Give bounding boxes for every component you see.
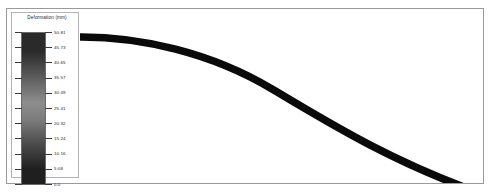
legend-tick-mark (45, 93, 52, 94)
legend-tick-mark (45, 184, 52, 185)
legend-tick-mark (15, 169, 22, 170)
legend-tick-label: 40.65 (54, 60, 78, 65)
fea-deformation-plot: Deformation (mm) 50.8145.7340.6535.5730.… (0, 0, 492, 193)
legend-tick-label: 25.41 (54, 106, 78, 111)
legend-panel: Deformation (mm) 50.8145.7340.6535.5730.… (11, 12, 79, 178)
legend-tick-label: 30.49 (54, 90, 78, 95)
legend-tick-mark (45, 169, 52, 170)
legend-tick-mark (45, 123, 52, 124)
deformed-beam-graphic (80, 9, 483, 183)
legend-tick-mark (45, 108, 52, 109)
legend-tick-label: 20.32 (54, 121, 78, 126)
legend-tick-mark (45, 32, 52, 33)
legend-tick-label: 5.08 (54, 166, 78, 171)
legend-tick-label: 15.24 (54, 136, 78, 141)
legend-tick-label: 45.73 (54, 45, 78, 50)
legend-tick-mark (15, 123, 22, 124)
legend-tick-mark (15, 138, 22, 139)
legend-tick-label: 0.0 (54, 182, 78, 187)
model-viewport[interactable] (80, 9, 483, 183)
colorbar (21, 32, 46, 185)
legend-tick-mark (45, 154, 52, 155)
legend-tick-mark (15, 32, 22, 33)
legend-tick-mark (45, 78, 52, 79)
legend-tick-mark (45, 138, 52, 139)
legend-tick-label: 50.81 (54, 30, 78, 35)
beam-curve-path (80, 37, 483, 183)
legend-tick-mark (45, 62, 52, 63)
legend-tick-label: 35.57 (54, 75, 78, 80)
legend-tick-mark (15, 78, 22, 79)
legend-tick-mark (15, 184, 22, 185)
legend-tick-mark (15, 154, 22, 155)
legend-tick-mark (15, 47, 22, 48)
legend-tick-label: 10.16 (54, 151, 78, 156)
legend-tick-mark (15, 108, 22, 109)
legend-tick-mark (45, 47, 52, 48)
legend-tick-mark (15, 62, 22, 63)
legend-tick-mark (15, 93, 22, 94)
legend-title: Deformation (mm) (15, 14, 79, 21)
